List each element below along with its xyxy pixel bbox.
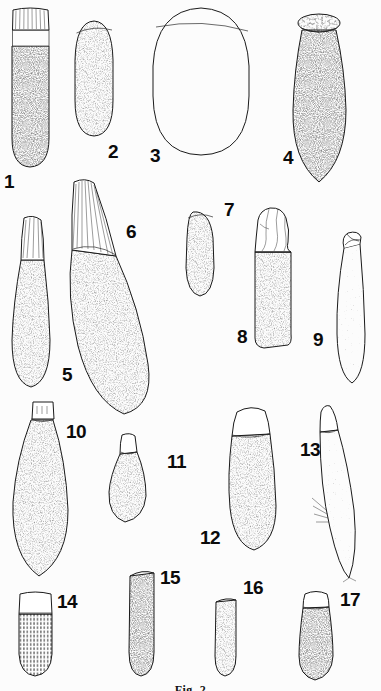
specimen-label-3: 3: [150, 146, 160, 165]
specimen-label-7: 7: [224, 200, 234, 219]
specimen-label-11: 11: [167, 452, 186, 471]
specimen-label-14: 14: [57, 592, 77, 611]
specimen-label-9: 9: [313, 330, 323, 349]
specimen-label-15: 15: [160, 568, 180, 587]
specimen-9: [330, 228, 372, 386]
specimen-label-4: 4: [283, 148, 293, 167]
specimen-label-16: 16: [243, 578, 263, 597]
specimen-label-12: 12: [200, 528, 220, 547]
specimen-17: [294, 586, 340, 684]
specimen-12: [224, 402, 282, 554]
specimen-4: [288, 4, 352, 186]
specimen-14: [12, 588, 60, 680]
specimen-label-13: 13: [300, 440, 320, 459]
illustration-plate: 1 2 3 4 5 6 7 8 9 10 11 12 13 14 15 16 1…: [0, 0, 381, 691]
specimen-5: [8, 212, 58, 390]
specimen-15: [123, 566, 161, 680]
specimen-13: [312, 402, 366, 582]
specimen-label-5: 5: [62, 365, 72, 384]
specimen-label-2: 2: [108, 142, 118, 161]
specimen-label-1: 1: [4, 172, 14, 191]
specimen-6: [62, 178, 178, 418]
specimen-label-17: 17: [340, 590, 360, 609]
specimen-16: [210, 594, 242, 680]
specimen-11: [104, 430, 152, 526]
specimen-label-6: 6: [126, 222, 136, 241]
specimen-3: [148, 4, 254, 158]
specimen-label-8: 8: [237, 327, 247, 346]
specimen-8: [248, 204, 298, 352]
specimen-1: [6, 6, 56, 172]
specimen-label-10: 10: [66, 422, 86, 441]
plate-caption: Fig. 2: [0, 683, 381, 691]
specimen-7: [182, 206, 220, 300]
specimen-2: [72, 16, 116, 140]
